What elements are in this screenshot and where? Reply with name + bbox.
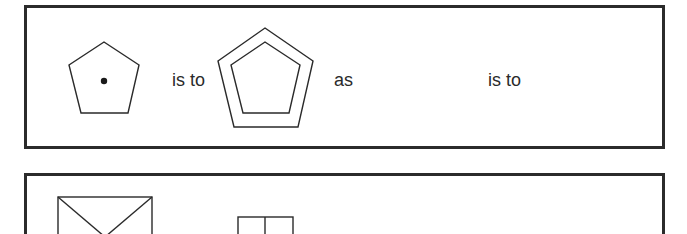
connector-as: as bbox=[334, 70, 353, 90]
connector-is-to-2: is to bbox=[488, 70, 521, 90]
connector-is-to-1: is to bbox=[172, 70, 205, 90]
answer-options-frame bbox=[24, 173, 665, 234]
